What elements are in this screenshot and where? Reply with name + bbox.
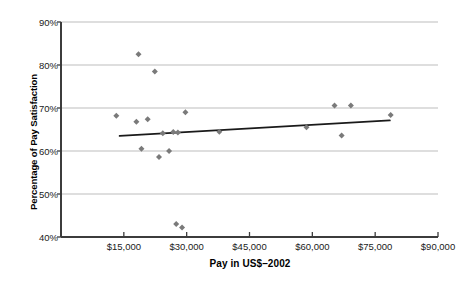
data-point-marker [166, 148, 172, 154]
data-point-marker [348, 102, 354, 108]
x-axis-tick-label: $30,000 [169, 241, 203, 252]
data-point-marker [135, 51, 141, 57]
data-point-marker [133, 119, 139, 125]
x-axis-tick-label: $90,000 [421, 241, 455, 252]
data-point-marker [173, 221, 179, 227]
data-point-marker [388, 112, 394, 118]
data-point-marker [113, 113, 119, 119]
data-point-marker [179, 225, 185, 231]
scatter-chart: Percentage of Pay Satisfaction 40%50%60%… [0, 0, 464, 284]
data-point-marker [145, 116, 151, 122]
x-axis-tick-label: $75,000 [358, 241, 392, 252]
x-axis-tick-label: $15,000 [107, 241, 141, 252]
data-point-marker [152, 68, 158, 74]
data-point-marker [182, 109, 188, 115]
data-point-marker [160, 130, 166, 136]
data-point-marker [339, 133, 345, 139]
x-axis-title: Pay in US$–2002 [61, 258, 439, 269]
x-axis-tick-label: $45,000 [232, 241, 266, 252]
data-point-marker [332, 102, 338, 108]
data-point-marker [175, 130, 181, 136]
data-point-marker [156, 154, 162, 160]
x-axis-tick-label: $60,000 [295, 241, 329, 252]
